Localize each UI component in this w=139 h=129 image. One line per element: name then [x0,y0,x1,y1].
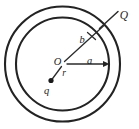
r-distance-line [52,67,62,81]
label-inner-radius-a: a [87,55,92,66]
label-outer-radius-b: b [79,34,84,45]
q-outer-leader-line [100,12,119,29]
label-charge-distance-r: r [62,68,66,78]
label-point-charge-q: q [44,85,49,96]
label-center-o: O [54,56,62,67]
point-charge-dot [48,78,53,83]
figure-canvas: Q b O a r q [0,0,139,129]
label-outer-charge: Q [120,9,129,21]
physics-figure: Q b O a r q [0,0,139,129]
